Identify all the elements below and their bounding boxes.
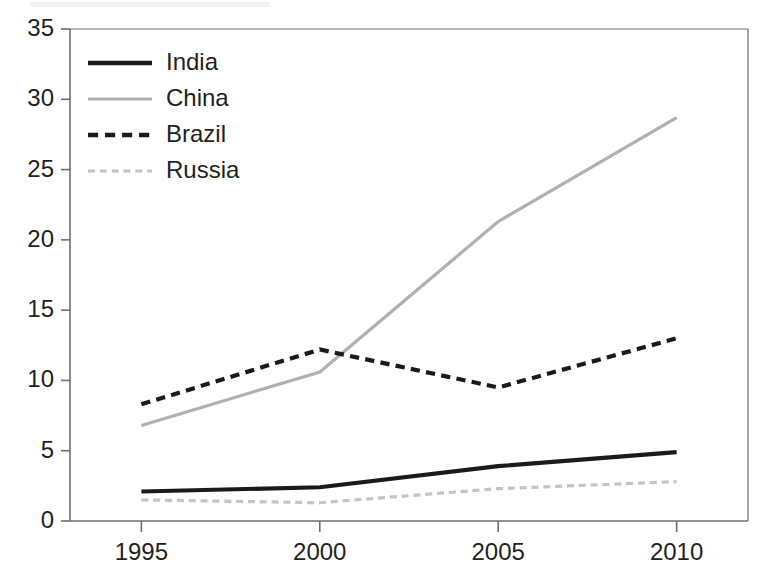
- line-chart: 05101520253035 1995200020052010 IndiaChi…: [0, 0, 778, 580]
- y-tick-label: 20: [0, 225, 54, 253]
- y-tick-label: 25: [0, 155, 54, 183]
- x-tick-label: 2010: [627, 538, 727, 566]
- legend-label-brazil: Brazil: [166, 120, 226, 148]
- x-tick-label: 2000: [270, 538, 370, 566]
- plot-area: [0, 0, 778, 580]
- y-tick-label: 10: [0, 365, 54, 393]
- series-line-russia: [141, 482, 676, 503]
- legend-label-russia: Russia: [166, 156, 239, 184]
- y-tick-label: 0: [0, 506, 54, 534]
- legend-label-india: India: [166, 48, 218, 76]
- series-line-brazil: [141, 338, 676, 404]
- legend-label-china: China: [166, 84, 229, 112]
- y-tick-label: 35: [0, 14, 54, 42]
- x-tick-label: 2005: [448, 538, 548, 566]
- y-tick-label: 15: [0, 295, 54, 323]
- y-tick-label: 5: [0, 436, 54, 464]
- y-tick-label: 30: [0, 84, 54, 112]
- x-tick-label: 1995: [91, 538, 191, 566]
